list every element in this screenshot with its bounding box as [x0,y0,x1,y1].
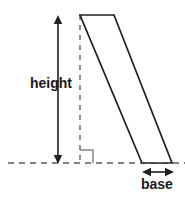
base-label: base [141,177,173,192]
base-arrowhead-left-icon [142,168,151,176]
right-angle-marker-icon [80,150,93,163]
parallelogram-shape [80,15,172,163]
parallelogram-diagram: height base [0,0,185,200]
height-arrowhead-up-icon [54,15,62,24]
diagram-canvas [0,0,185,200]
height-label: height [30,76,72,91]
base-arrowhead-right-icon [165,168,174,176]
